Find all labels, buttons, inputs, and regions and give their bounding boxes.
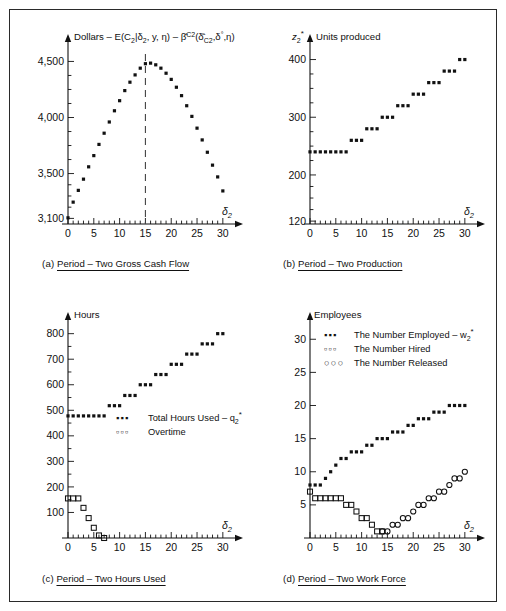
data-point [386,437,389,440]
data-point [180,94,183,97]
data-point [149,383,152,386]
data-point [381,437,384,440]
x-tick-label: 0 [307,541,313,553]
legend-label-total-hours: Total Hours Used – q2* [148,410,242,425]
data-point-open-square [364,516,369,521]
y-tick-label: 300 [46,455,64,467]
legend-label-released: The Number Released [354,358,448,368]
data-point [458,404,461,407]
data-point [66,414,69,417]
data-point [443,69,446,72]
y-tick-label: 4,000 [38,111,64,123]
panel-b: 120200300400051015202530δ2z2*Units produ… [262,18,487,240]
data-point [350,450,353,453]
x-tick-label: 10 [356,227,368,239]
y-axis-arrow [307,312,313,320]
data-point [133,394,136,397]
series [66,332,224,417]
panel-a-caption-text: Period – Two Gross Cash Flow [57,258,189,269]
x-tick-label: 25 [433,227,445,239]
panel-a-plot: 3,1003,5004,0004,500051015202530δ2Dollar… [20,18,245,240]
x-axis-arrow [235,535,243,541]
data-point [175,363,178,366]
data-point [128,81,131,84]
data-point [113,404,116,407]
series [380,469,468,534]
data-point [417,93,420,96]
y-tick-label: 3,100 [38,212,64,224]
x-axis-arrow [235,221,243,227]
y-tick-label: 5 [300,498,306,510]
y-tick-label: 25 [294,366,306,378]
data-point [334,464,337,467]
data-point [308,150,311,153]
data-point-open-square [81,505,86,510]
x-tick-label: 30 [217,227,229,239]
data-point [201,342,204,345]
data-point [92,414,95,417]
x-axis-label: δ2 [464,205,474,220]
panel-b-plot: 120200300400051015202530δ2z2*Units produ… [262,18,487,240]
x-tick-label: 5 [333,541,339,553]
data-point [87,414,90,417]
data-point [314,483,317,486]
data-point-open-circle [416,502,421,507]
data-point [149,62,152,65]
panel-c-axis-title: Hours [74,309,100,320]
x-tick-label: 0 [307,227,313,239]
data-point [164,373,167,376]
data-point [432,411,435,414]
panel-c-plot: 100200300400500600700800051015202530δ2Ho… [20,296,245,554]
data-point [118,404,121,407]
y-tick-label: 10 [294,465,306,477]
data-point [401,430,404,433]
data-point [412,424,415,427]
data-point [128,394,131,397]
data-point [448,69,451,72]
y-tick-label: 400 [288,53,306,65]
data-point-open-circle [395,522,400,527]
data-point [334,150,337,153]
data-point-open-circle [421,502,426,507]
data-point [123,394,126,397]
y-tick-label: 700 [46,353,64,365]
data-point [324,150,327,153]
data-point [448,404,451,407]
data-point [396,430,399,433]
data-point [77,414,80,417]
data-point [432,81,435,84]
panel-a: 3,1003,5004,0004,500051015202530δ2Dollar… [20,18,245,240]
data-point-open-square [313,496,318,501]
data-point [97,143,100,146]
y-tick-label: 120 [288,215,306,227]
data-point-open-square [91,525,96,530]
data-point [345,457,348,460]
data-point [350,139,353,142]
data-point-open-circle [436,489,441,494]
data-point [123,89,126,92]
data-point [463,404,466,407]
data-point [453,404,456,407]
data-point-open-square [76,496,81,501]
data-point [97,414,100,417]
data-point [103,132,106,135]
data-point [391,430,394,433]
data-point-open-circle [380,529,385,534]
data-point [195,127,198,130]
data-point [190,115,193,118]
data-point [144,62,147,65]
legend-label-overtime: Overtime [148,427,186,437]
panel-d: 51015202530051015202530δ2Employees▪▪▪The… [262,296,487,554]
data-point-open-square [369,522,374,527]
data-point [216,175,219,178]
x-tick-label: 20 [407,227,419,239]
panel-d-plot: 51015202530051015202530δ2Employees▪▪▪The… [262,296,487,554]
panel-b-caption: (b) Period – Two Production [283,258,402,269]
data-point [381,116,384,119]
x-tick-label: 15 [382,227,394,239]
y-axis-arrow [65,312,71,320]
data-point [185,104,188,107]
data-point [66,216,69,219]
x-tick-label: 10 [114,227,126,239]
data-point [406,104,409,107]
